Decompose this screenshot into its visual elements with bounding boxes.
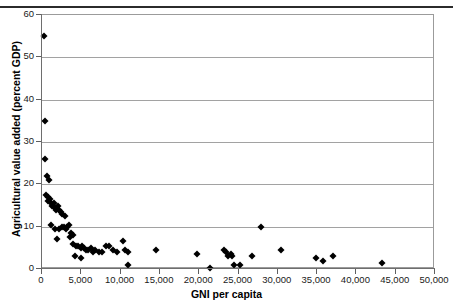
data-point	[319, 258, 326, 265]
y-tick-label-50: 50	[23, 51, 34, 61]
y-tick-label-wrap-60: 60	[0, 9, 34, 19]
data-point	[114, 249, 121, 256]
x-tick-label-15000: 15,000	[144, 275, 173, 285]
gridline-y-20	[42, 184, 433, 185]
y-axis-title: Agricultural value added (percent GDP)	[10, 19, 22, 259]
y-tick-10	[36, 226, 41, 227]
gridline-y-30	[42, 142, 433, 143]
data-point	[53, 236, 60, 243]
data-point	[78, 255, 85, 262]
data-point	[42, 117, 49, 124]
y-tick-label-20: 20	[23, 178, 34, 188]
data-point	[119, 238, 126, 245]
data-point	[378, 259, 385, 266]
x-tick-label-25000: 25,000	[223, 275, 252, 285]
x-tick-label-10000: 10,000	[105, 275, 134, 285]
data-point	[193, 251, 200, 258]
data-point	[124, 249, 131, 256]
data-point	[312, 255, 319, 262]
data-point	[329, 253, 336, 260]
gridline-y-50	[42, 57, 433, 58]
caption-divider-rule	[0, 6, 453, 8]
x-tick-label-40000: 40,000	[341, 275, 370, 285]
y-tick-label-60: 60	[23, 9, 34, 19]
data-point	[277, 246, 284, 253]
y-tick-label-10: 10	[23, 221, 34, 231]
x-tick-label-5000: 5,000	[68, 275, 92, 285]
x-axis-title: GNI per capita	[0, 288, 453, 300]
plot-area	[41, 14, 434, 268]
x-tick-label-50000: 50,000	[419, 275, 448, 285]
scatter-chart-figure: 0102030405060 05,00010,00015,00020,00025…	[0, 0, 453, 304]
gridline-y-10	[42, 227, 433, 228]
data-point	[152, 246, 159, 253]
y-tick-label-0: 0	[29, 263, 34, 273]
y-tick-30	[36, 141, 41, 142]
y-tick-label-40: 40	[23, 94, 34, 104]
data-point	[258, 223, 265, 230]
x-tick-label-30000: 30,000	[262, 275, 291, 285]
x-tick-label-35000: 35,000	[302, 275, 331, 285]
y-axis-line	[41, 14, 42, 269]
x-tick-label-0: 0	[38, 275, 43, 285]
y-tick-50	[36, 56, 41, 57]
gridline-y-40	[42, 100, 433, 101]
y-tick-label-wrap-0: 0	[0, 263, 34, 273]
data-point	[41, 155, 48, 162]
y-tick-40	[36, 99, 41, 100]
y-tick-60	[36, 14, 41, 15]
x-tick-label-45000: 45,000	[380, 275, 409, 285]
data-point	[46, 177, 53, 184]
data-point	[61, 213, 68, 220]
x-tick-label-20000: 20,000	[184, 275, 213, 285]
data-point	[248, 253, 255, 260]
y-tick-20	[36, 183, 41, 184]
y-tick-label-30: 30	[23, 136, 34, 146]
